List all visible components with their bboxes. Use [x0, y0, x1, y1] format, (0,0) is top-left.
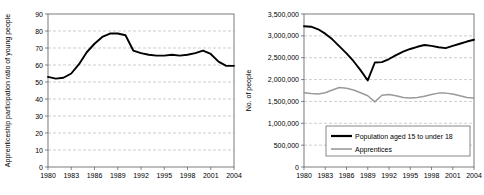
y-tick-label: 0 — [295, 164, 299, 171]
x-tick-label: 1998 — [424, 172, 440, 179]
figure-container: 0102030405060708090198019831986198919921… — [0, 0, 484, 195]
x-tick-label: 1992 — [381, 172, 397, 179]
y-tick-label: 20 — [35, 130, 43, 137]
x-tick-label: 1995 — [156, 172, 172, 179]
y-tick-label: 30 — [35, 113, 43, 120]
legend-label-1: Apprentices — [355, 146, 392, 154]
legend: Population aged 15 to under 18Apprentice… — [326, 126, 470, 156]
y-tick-label: 2,000,000 — [268, 76, 299, 83]
y-axis-title: No. of people — [245, 70, 253, 112]
x-tick-label: 1983 — [63, 172, 79, 179]
x-tick-label: 2004 — [466, 172, 482, 179]
y-tick-label: 1,500,000 — [268, 98, 299, 105]
y-tick-label: 60 — [35, 62, 43, 69]
apprenticeship-ratio-chart: 0102030405060708090198019831986198919921… — [0, 0, 242, 195]
y-tick-label: 500,000 — [274, 142, 299, 149]
y-tick-label: 2,500,000 — [268, 54, 299, 61]
y-tick-label: 0 — [39, 164, 43, 171]
y-tick-label: 40 — [35, 96, 43, 103]
x-tick-label: 1980 — [40, 172, 56, 179]
y-tick-label: 10 — [35, 147, 43, 154]
legend-label-0: Population aged 15 to under 18 — [355, 133, 453, 141]
population-apprentices-chart: 0500,0001,000,0001,500,0002,000,0002,500… — [242, 0, 484, 195]
y-tick-label: 90 — [35, 11, 43, 18]
y-axis-title: Apprenticeship participation ratio of yo… — [4, 14, 12, 167]
series-line-0 — [48, 34, 234, 79]
y-tick-label: 50 — [35, 79, 43, 86]
x-tick-label: 2001 — [445, 172, 461, 179]
x-tick-label: 1995 — [402, 172, 418, 179]
y-tick-label: 3,500,000 — [268, 11, 299, 18]
x-tick-label: 2001 — [203, 172, 219, 179]
x-tick-label: 1983 — [317, 172, 333, 179]
series-line-0 — [304, 26, 474, 80]
y-tick-label: 80 — [35, 28, 43, 35]
y-tick-label: 70 — [35, 45, 43, 52]
legend-box — [326, 126, 470, 156]
x-tick-label: 1998 — [180, 172, 196, 179]
x-tick-label: 1989 — [360, 172, 376, 179]
x-tick-label: 1980 — [296, 172, 312, 179]
right-chart-panel: 0500,0001,000,0001,500,0002,000,0002,500… — [242, 0, 484, 195]
left-chart-panel: 0102030405060708090198019831986198919921… — [0, 0, 242, 195]
x-tick-label: 2004 — [226, 172, 242, 179]
y-tick-label: 1,000,000 — [268, 120, 299, 127]
x-tick-label: 1992 — [133, 172, 149, 179]
x-tick-label: 1986 — [87, 172, 103, 179]
y-tick-label: 3,000,000 — [268, 32, 299, 39]
x-tick-label: 1989 — [110, 172, 126, 179]
series-line-1 — [304, 87, 474, 101]
plot-frame — [48, 14, 234, 167]
x-tick-label: 1986 — [339, 172, 355, 179]
